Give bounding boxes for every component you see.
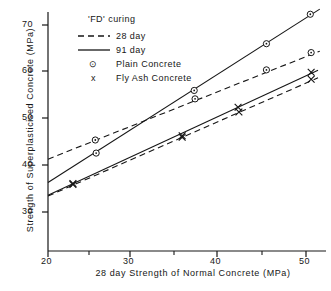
legend-item-28-day: 28 day xyxy=(116,31,146,41)
legend-item-plain-concrete: Plain Concrete xyxy=(116,59,181,69)
legend-title: 'FD' curing xyxy=(88,14,135,24)
data-series-layer xyxy=(48,9,320,196)
series-fly-ash-concrete-91-day xyxy=(48,69,318,195)
x-tick-label-30: 30 xyxy=(123,256,134,266)
y-axis-ticks xyxy=(42,25,48,212)
data-point-center-dot xyxy=(95,152,97,154)
data-point-center-dot xyxy=(310,52,312,54)
data-point-x xyxy=(179,134,186,141)
series-line xyxy=(48,70,318,195)
data-point-center-dot xyxy=(266,69,268,71)
legend-line-samples xyxy=(78,36,110,50)
legend-item-fly-ash-concrete: Fly Ash Concrete xyxy=(116,73,192,83)
chart-figure: 70 60 50 40 30 20 30 40 50 28 day Streng… xyxy=(0,0,331,291)
x-axis-ticks xyxy=(48,251,306,257)
x-tick-label-40: 40 xyxy=(210,256,221,266)
x-tick-label-50: 50 xyxy=(299,256,310,266)
circle-marker-icon: ⊙ xyxy=(89,59,97,69)
plot-canvas xyxy=(0,0,331,291)
series-plain-concrete-91-day xyxy=(48,9,320,182)
data-point-center-dot xyxy=(194,98,196,100)
x-marker-icon: x xyxy=(91,73,96,83)
y-axis-title: Strength of Superplasticised Concrete (M… xyxy=(25,10,35,250)
series-fly-ash-concrete-28-day xyxy=(48,76,318,196)
x-tick-label-20: 20 xyxy=(41,256,52,266)
series-line xyxy=(48,9,320,182)
data-point-center-dot xyxy=(94,139,96,141)
data-point-center-dot xyxy=(193,90,195,92)
legend-item-91-day: 91 day xyxy=(116,45,146,55)
data-point-center-dot xyxy=(309,13,311,15)
x-axis-title: 28 day Strength of Normal Concrete (MPa) xyxy=(62,268,324,278)
data-point-center-dot xyxy=(266,43,268,45)
